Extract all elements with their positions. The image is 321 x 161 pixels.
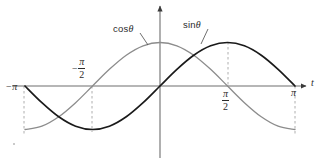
sin-curve-label: sinθ <box>183 20 201 30</box>
tick-label-pi-over-2: π 2 <box>222 89 229 112</box>
scan-artifact-speck <box>13 143 15 145</box>
pi-symbol: π <box>291 87 296 98</box>
sin-leader-line <box>201 29 208 44</box>
cos-label-text: cos <box>113 23 128 34</box>
fraction-numerator-pi: π <box>222 89 229 100</box>
tick-label-minus-pi: −π <box>6 82 17 92</box>
sin-label-text: sin <box>183 19 196 30</box>
pi-symbol: π <box>12 81 17 92</box>
fraction-denominator-two: 2 <box>222 102 229 113</box>
minus-sign: − <box>6 81 12 92</box>
fraction-denominator-two: 2 <box>78 70 85 81</box>
plot-canvas <box>0 0 321 161</box>
fraction-pi-over-2: π 2 <box>78 57 85 80</box>
fraction-pi-over-2: π 2 <box>222 89 229 112</box>
cos-theta-symbol: θ <box>128 23 133 34</box>
minus-sign: − <box>72 64 78 74</box>
cos-curve-label: cosθ <box>113 24 134 34</box>
trigonometric-graph-figure: cosθ sinθ −π − π 2 π 2 π t <box>0 0 321 161</box>
x-axis-label: t <box>311 78 314 88</box>
tick-label-minus-pi-over-2: − π 2 <box>72 57 85 80</box>
sin-theta-symbol: θ <box>196 19 201 30</box>
tick-label-pi: π <box>291 88 296 98</box>
fraction-numerator-pi: π <box>78 57 85 68</box>
cos-leader-line <box>140 33 148 45</box>
